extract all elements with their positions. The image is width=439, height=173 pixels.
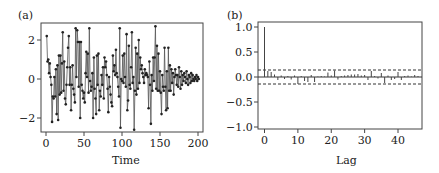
tick-label: −0.5 bbox=[226, 96, 253, 109]
tick-label: 0 bbox=[28, 73, 35, 86]
acf-plot bbox=[220, 0, 439, 173]
tick-label: 0.5 bbox=[235, 46, 253, 59]
x-axis-title-time: Time bbox=[112, 154, 140, 167]
tick-label: 150 bbox=[150, 137, 171, 150]
x-axis-title-lag: Lag bbox=[336, 154, 357, 167]
tick-label: 0.0 bbox=[235, 71, 253, 84]
tick-label: 20 bbox=[324, 134, 338, 147]
panel-a-time-series: (a) 050100150200−202 Time bbox=[0, 0, 220, 173]
panel-b-acf: (b) 010203040−1.0−0.50.00.51.0 Lag bbox=[220, 0, 439, 173]
tick-label: 1.0 bbox=[235, 21, 253, 34]
tick-label: −2 bbox=[19, 112, 35, 125]
tick-label: 10 bbox=[291, 134, 305, 147]
tick-label: 200 bbox=[188, 137, 209, 150]
tick-label: 0 bbox=[43, 137, 50, 150]
tick-label: 40 bbox=[391, 134, 405, 147]
tick-label: 2 bbox=[28, 34, 35, 47]
tick-label: −1.0 bbox=[226, 121, 253, 134]
tick-label: 30 bbox=[358, 134, 372, 147]
tick-label: 0 bbox=[261, 134, 268, 147]
tick-label: 100 bbox=[112, 137, 133, 150]
tick-label: 50 bbox=[77, 137, 91, 150]
